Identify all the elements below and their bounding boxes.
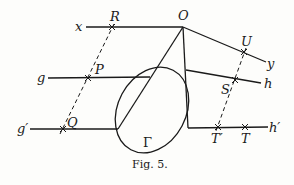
label-T: T — [241, 131, 251, 146]
line-O-vertical — [183, 27, 188, 128]
line-y — [183, 27, 266, 62]
label-Q: Q — [67, 115, 78, 130]
label-T-prime: T′ — [211, 131, 223, 146]
label-x: x — [75, 19, 83, 34]
line-O-slant — [118, 27, 183, 129]
figure-caption: Fig. 5. — [132, 158, 168, 171]
line-h-prime — [188, 127, 268, 128]
label-g: g — [37, 70, 45, 85]
label-U: U — [241, 34, 253, 49]
label-h-prime: h′ — [269, 120, 280, 135]
figure-diagram: x R O U y g P S h g′ Q T′ T h′ Γ Fig. 5. — [0, 0, 294, 185]
label-S: S — [221, 82, 230, 97]
label-O: O — [178, 8, 189, 23]
label-g-prime: g′ — [17, 121, 28, 136]
label-h: h — [264, 76, 272, 91]
label-y: y — [266, 56, 275, 71]
label-R: R — [109, 9, 120, 24]
label-gamma: Γ — [143, 135, 152, 150]
label-P: P — [94, 62, 104, 77]
